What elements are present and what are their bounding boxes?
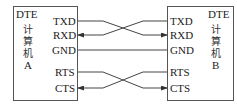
device-a: DTE 计 算 机 A TXD RXD GND RTS CTS (14, 7, 78, 101)
wires (78, 21, 167, 88)
device-a-pin-cts: CTS (55, 82, 75, 94)
null-modem-diagram: DTE 计 算 机 A TXD RXD GND RTS CTS DTE 计 算 … (0, 0, 237, 111)
device-b-pin-gnd: GND (170, 44, 194, 56)
device-a-pin-gnd: GND (52, 44, 76, 56)
device-a-pin-rxd: RXD (53, 29, 76, 41)
device-b-name-4: B (212, 59, 219, 71)
device-a-name-4: A (24, 59, 32, 71)
device-a-name-3: 机 (23, 47, 33, 59)
device-a-name-1: 计 (23, 23, 33, 35)
device-a-name-2: 算 (23, 35, 33, 47)
wire-b-rts-to-a-cts (78, 72, 167, 88)
wire-b-txd-to-a-rxd (78, 21, 167, 35)
device-a-title: DTE (16, 8, 38, 20)
device-a-pin-rts: RTS (55, 66, 75, 78)
device-b-title: DTE (208, 8, 230, 20)
device-b-name-2: 算 (211, 35, 221, 47)
device-b-pin-rts: RTS (170, 66, 190, 78)
device-b-name-3: 机 (211, 47, 221, 59)
device-b: DTE 计 算 机 B TXD RXD GND RTS CTS (168, 7, 234, 101)
device-b-pin-txd: TXD (170, 15, 193, 27)
device-b-pin-cts: CTS (170, 82, 190, 94)
device-a-pin-txd: TXD (53, 15, 76, 27)
device-b-name-1: 计 (211, 23, 221, 35)
device-b-pin-rxd: RXD (170, 29, 193, 41)
